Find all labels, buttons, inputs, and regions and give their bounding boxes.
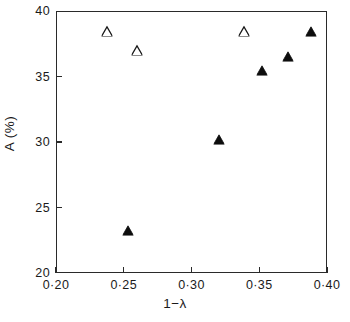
y-tick-label: 35 — [18, 70, 50, 84]
y-tick-label: 20 — [18, 266, 50, 280]
y-tick-mark — [56, 141, 62, 142]
x-axis-title: 1−λ — [0, 296, 350, 311]
x-tick-label: 0·25 — [110, 278, 137, 292]
y-tick-mark — [56, 76, 62, 77]
y-tick-mark — [56, 207, 62, 208]
y-tick-label: 30 — [18, 135, 50, 149]
y-tick-label: 40 — [18, 4, 50, 18]
x-tick-mark — [55, 267, 56, 273]
x-tick-mark — [191, 267, 192, 273]
plot-frame — [56, 11, 327, 273]
x-tick-mark — [123, 267, 124, 273]
x-tick-label: 0·35 — [246, 278, 273, 292]
scatter-plot-figure: 0·200·250·300·350·40 2025303540 1−λ A (%… — [0, 0, 350, 322]
y-axis-title: A (%) — [2, 104, 17, 164]
x-tick-label: 0·20 — [43, 278, 70, 292]
x-tick-mark — [259, 267, 260, 273]
x-tick-mark — [326, 267, 327, 273]
y-tick-label: 25 — [18, 201, 50, 215]
x-tick-label: 0·40 — [314, 278, 341, 292]
x-tick-label: 0·30 — [178, 278, 205, 292]
